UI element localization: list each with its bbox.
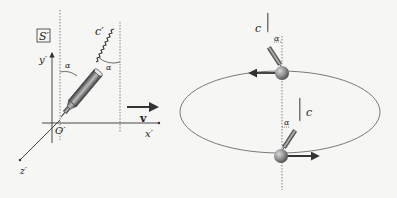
velocity-label: v bbox=[139, 112, 147, 125]
y-axis-label: y′ bbox=[38, 54, 48, 65]
orbit-ellipse bbox=[180, 71, 380, 153]
telescope-tube bbox=[69, 69, 102, 106]
top-light-ray-wavy bbox=[267, 13, 269, 32]
angle-arc-1 bbox=[60, 72, 77, 76]
bottom-light-ray-wavy bbox=[299, 98, 301, 121]
angle-label-2: α bbox=[106, 63, 112, 72]
bottom-earth-ball bbox=[274, 149, 288, 163]
aberration-diagram: S′ y′ x′ z′ O′ α α c′ v bbox=[0, 0, 397, 198]
top-observer: c α bbox=[250, 13, 289, 80]
x-axis-end bbox=[158, 122, 160, 124]
top-angle-label: α bbox=[274, 34, 280, 43]
telescope bbox=[57, 68, 103, 120]
telescope-eyepiece-tip bbox=[61, 112, 65, 117]
bottom-observer: c α bbox=[274, 98, 318, 163]
right-panel: c α c α bbox=[180, 13, 380, 190]
top-light-label: c bbox=[255, 22, 261, 35]
bottom-light-label: c bbox=[306, 106, 312, 119]
origin-label: O′ bbox=[55, 125, 66, 136]
bottom-angle-label: α bbox=[284, 118, 290, 127]
z-axis-label: z′ bbox=[19, 166, 27, 176]
left-panel: S′ y′ x′ z′ O′ α α c′ v bbox=[19, 10, 160, 176]
light-label: c′ bbox=[95, 25, 104, 38]
z-axis-end bbox=[19, 159, 21, 161]
x-axis-label: x′ bbox=[145, 128, 154, 139]
z-axis bbox=[20, 120, 60, 160]
frame-label: S′ bbox=[39, 30, 50, 43]
angle-label-1: α bbox=[65, 61, 71, 70]
top-earth-ball bbox=[275, 66, 289, 80]
